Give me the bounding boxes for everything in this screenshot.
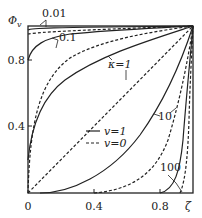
- curve-label-001: 0.01: [42, 7, 67, 20]
- x-tick-2: 0.8: [151, 200, 169, 213]
- y-tick-1: 0.8: [8, 54, 26, 67]
- x-axis-label: ζ: [185, 200, 192, 213]
- x-tick-1: 0.4: [85, 200, 103, 213]
- curve-label-10: 10: [158, 110, 172, 123]
- legend-label-dashed: v=0: [104, 137, 126, 150]
- curve-label-01: 0.1: [59, 31, 77, 44]
- y-axis-label: Φv: [8, 14, 22, 29]
- chart: 0 0.4 0.8 0.4 0.8 ζ Φv: [0, 0, 202, 218]
- curve-label-100: 100: [160, 161, 181, 174]
- x-tick-0: 0: [25, 200, 32, 213]
- y-tick-0: 0.4: [8, 120, 26, 133]
- curve-label-k1: κ=1: [107, 58, 131, 71]
- axis-ticks: [28, 60, 160, 193]
